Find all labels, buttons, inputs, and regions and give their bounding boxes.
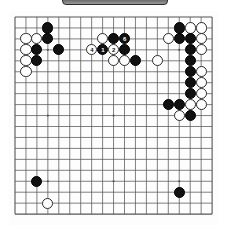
white-stone[interactable] <box>196 44 207 55</box>
black-stone[interactable] <box>185 110 196 121</box>
white-stone[interactable] <box>174 110 185 121</box>
black-stone[interactable] <box>185 44 196 55</box>
black-stone[interactable] <box>174 187 185 198</box>
black-stone[interactable] <box>185 55 196 66</box>
black-stone[interactable] <box>174 99 185 110</box>
white-stone[interactable] <box>20 44 31 55</box>
go-review-screen: 6412 <box>0 0 226 233</box>
black-stone[interactable]: 1 <box>97 44 108 55</box>
white-stone[interactable]: 2 <box>108 44 119 55</box>
white-stone[interactable] <box>196 66 207 77</box>
white-stone[interactable] <box>163 33 174 44</box>
white-stone[interactable] <box>152 55 163 66</box>
white-stone[interactable] <box>196 88 207 99</box>
white-stone[interactable] <box>196 22 207 33</box>
black-stone[interactable] <box>42 33 53 44</box>
move-number-label: 2 <box>112 47 115 53</box>
black-stone[interactable] <box>174 33 185 44</box>
black-stone[interactable] <box>185 77 196 88</box>
white-stone[interactable] <box>119 55 130 66</box>
black-stone[interactable] <box>185 88 196 99</box>
black-stone[interactable] <box>130 55 141 66</box>
move-number-label: 4 <box>90 47 93 53</box>
black-stone[interactable] <box>108 33 119 44</box>
black-stone[interactable] <box>31 55 42 66</box>
white-stone[interactable] <box>196 77 207 88</box>
black-stone[interactable] <box>31 176 42 187</box>
black-stone[interactable] <box>163 99 174 110</box>
move-number-label: 6 <box>123 36 126 42</box>
black-stone[interactable] <box>174 22 185 33</box>
stone-layer: 6412 <box>9 11 218 225</box>
black-stone[interactable] <box>119 44 130 55</box>
black-stone[interactable]: 6 <box>119 33 130 44</box>
white-stone[interactable] <box>42 198 53 209</box>
white-stone[interactable] <box>20 55 31 66</box>
black-stone[interactable] <box>185 33 196 44</box>
white-stone[interactable] <box>185 99 196 110</box>
white-stone[interactable] <box>185 22 196 33</box>
title-bar[interactable] <box>62 0 168 5</box>
white-stone[interactable] <box>20 66 31 77</box>
move-number-label: 1 <box>101 47 104 53</box>
go-board[interactable]: 6412 <box>9 11 218 225</box>
black-stone[interactable] <box>185 66 196 77</box>
white-stone[interactable] <box>97 33 108 44</box>
black-stone[interactable] <box>42 22 53 33</box>
white-stone[interactable] <box>108 55 119 66</box>
white-stone[interactable] <box>196 99 207 110</box>
white-stone[interactable] <box>196 33 207 44</box>
black-stone[interactable] <box>31 44 42 55</box>
black-stone[interactable] <box>53 44 64 55</box>
white-stone[interactable] <box>31 33 42 44</box>
white-stone[interactable]: 4 <box>86 44 97 55</box>
white-stone[interactable] <box>20 33 31 44</box>
